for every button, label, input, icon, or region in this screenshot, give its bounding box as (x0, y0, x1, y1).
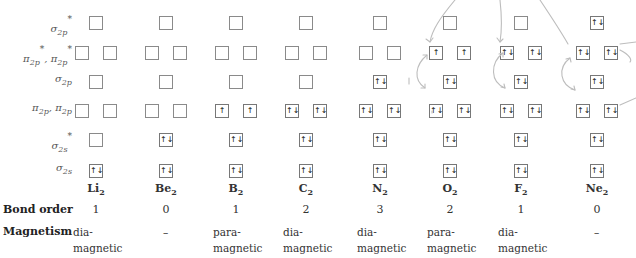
handwritten-annotations (0, 0, 636, 258)
